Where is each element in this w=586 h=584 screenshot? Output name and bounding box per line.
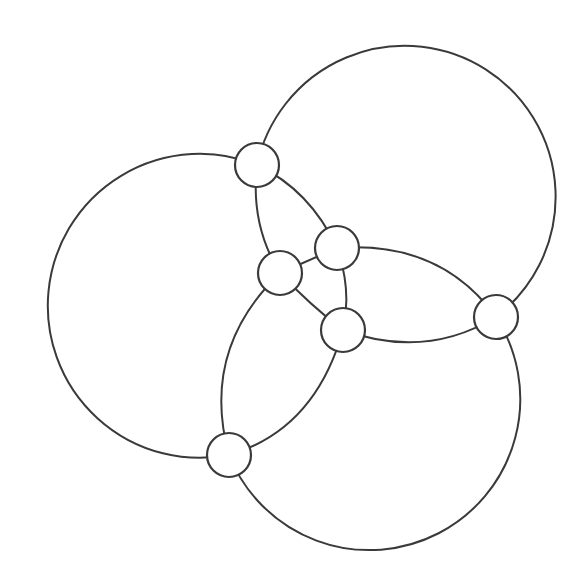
edge-c-b bbox=[229, 317, 520, 550]
edge-d-c bbox=[221, 273, 280, 455]
edge-e-b bbox=[337, 247, 496, 317]
edges bbox=[48, 46, 556, 550]
node-b bbox=[474, 295, 518, 339]
node-g bbox=[321, 308, 365, 352]
node-e bbox=[315, 226, 359, 270]
node-a bbox=[235, 143, 279, 187]
graph-diagram bbox=[0, 0, 586, 584]
edge-a-c bbox=[48, 154, 257, 458]
node-c bbox=[207, 433, 251, 477]
edge-g-c bbox=[229, 330, 343, 455]
node-d bbox=[258, 251, 302, 295]
nodes bbox=[207, 143, 518, 477]
